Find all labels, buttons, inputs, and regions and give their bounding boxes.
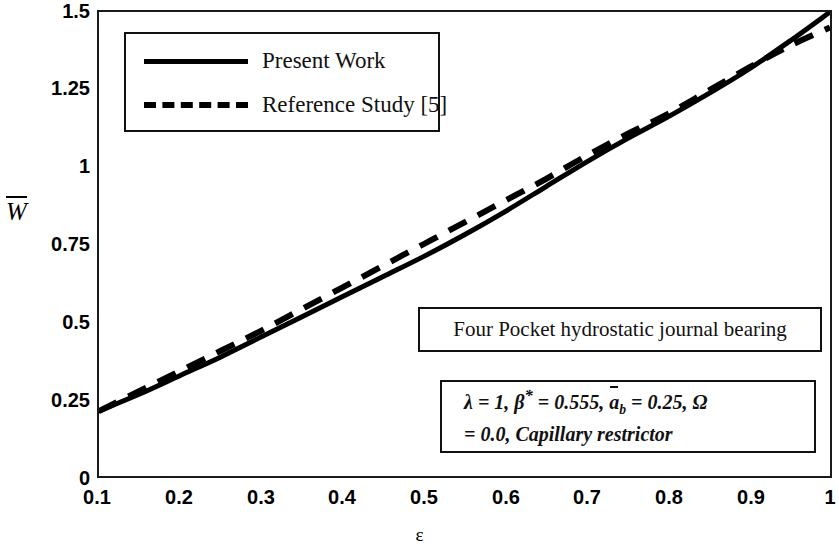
legend-label-present-work: Present Work [262,48,386,74]
y-tick-025: 0.25 [2,390,90,410]
x-tick-07: 0.7 [573,487,601,507]
legend-entry-present-work: Present Work [126,40,438,82]
x-tick-08: 0.8 [655,487,683,507]
y-axis-ticks: 0 0.25 0.5 0.75 1 1.25 1.5 [0,0,90,552]
y-tick-125: 1.25 [2,78,90,98]
annotation-parameters-line2: = 0.0, Capillary restrictor [464,420,814,449]
x-tick-05: 0.5 [410,487,438,507]
x-tick-06: 0.6 [492,487,520,507]
param-beta-star: * [525,386,533,405]
annotation-bearing-type-text: Four Pocket hydrostatic journal bearing [453,317,787,342]
y-tick-1: 1 [2,156,90,176]
x-tick-01: 0.1 [83,487,111,507]
x-tick-1: 1 [824,487,835,507]
x-tick-02: 0.2 [165,487,193,507]
annotation-parameters: λ = 1, β* = 0.555, ab = 0.25, Ω = 0.0, C… [440,380,816,453]
y-tick-075: 0.75 [2,234,90,254]
x-tick-09: 0.9 [737,487,765,507]
param-abar: a [609,388,619,417]
chart-figure: W 0 0.25 0.5 0.75 1 1.25 1.5 0.1 0.2 0.3… [0,0,839,552]
y-tick-0: 0 [2,468,90,488]
param-beta-value: = 0.555, [533,391,609,413]
annotation-bearing-type: Four Pocket hydrostatic journal bearing [418,307,822,352]
param-lambda-beta: λ = 1, β [464,391,525,413]
legend-label-reference-study: Reference Study [5] [262,92,447,118]
chart-legend: Present Work Reference Study [5] [124,32,440,132]
x-tick-04: 0.4 [328,487,356,507]
param-abar-value-omega: = 0.25, Ω [626,391,707,413]
dashed-line-swatch [144,102,248,108]
annotation-parameters-line1: λ = 1, β* = 0.555, ab = 0.25, Ω [464,384,814,419]
legend-entry-reference-study: Reference Study [5] [126,84,438,126]
x-axis-label: ε [0,524,839,546]
y-tick-15: 1.5 [2,1,90,21]
solid-line-swatch [144,59,248,64]
x-tick-03: 0.3 [247,487,275,507]
y-tick-05: 0.5 [2,312,90,332]
